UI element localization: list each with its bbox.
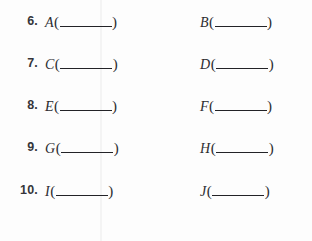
question-number: 8. <box>0 98 38 112</box>
question-row: 8. E ( ) F ( ) <box>0 98 312 126</box>
answer-item: J ( ) <box>200 183 270 200</box>
close-paren: ) <box>112 98 117 115</box>
open-paren: ( <box>56 140 61 157</box>
answer-item: A ( ) <box>45 14 117 31</box>
answer-blank-field[interactable] <box>216 152 268 153</box>
close-paren: ) <box>112 14 117 31</box>
open-paren: ( <box>50 183 55 200</box>
item-letter: C <box>45 57 55 73</box>
open-paren: ( <box>211 140 216 157</box>
answer-item: F ( ) <box>200 98 272 115</box>
close-paren: ) <box>108 183 113 200</box>
close-paren: ) <box>265 183 270 200</box>
open-paren: ( <box>211 56 216 73</box>
close-paren: ) <box>269 56 274 73</box>
answer-blank-field[interactable] <box>212 195 264 196</box>
item-letter: A <box>45 15 54 31</box>
answer-blank-field[interactable] <box>60 68 112 69</box>
answer-blank-field[interactable] <box>60 26 112 27</box>
close-paren: ) <box>267 98 272 115</box>
open-paren: ( <box>209 14 214 31</box>
close-paren: ) <box>269 140 274 157</box>
answer-blank-field[interactable] <box>215 110 267 111</box>
answer-item: G ( ) <box>45 140 119 157</box>
question-row: 9. G ( ) H ( ) <box>0 140 312 168</box>
answer-item: H ( ) <box>200 140 274 157</box>
worksheet-question-list: 6. A ( ) B ( ) 7. C ( ) D ( ) 8. <box>0 0 312 241</box>
answer-item: D ( ) <box>200 56 274 73</box>
answer-blank-field[interactable] <box>216 68 268 69</box>
question-number: 6. <box>0 14 38 28</box>
question-row: 7. C ( ) D ( ) <box>0 56 312 84</box>
question-row: 10. I ( ) J ( ) <box>0 183 312 211</box>
question-row: 6. A ( ) B ( ) <box>0 14 312 42</box>
question-number: 10. <box>0 183 38 197</box>
item-letter: F <box>200 99 209 115</box>
item-letter: D <box>200 57 211 73</box>
item-letter: E <box>45 99 54 115</box>
answer-item: E ( ) <box>45 98 117 115</box>
answer-blank-field[interactable] <box>61 152 113 153</box>
open-paren: ( <box>54 14 59 31</box>
answer-item: C ( ) <box>45 56 118 73</box>
answer-blank-field[interactable] <box>56 195 108 196</box>
question-number: 7. <box>0 56 38 70</box>
item-letter: H <box>200 141 211 157</box>
question-number: 9. <box>0 140 38 154</box>
open-paren: ( <box>55 56 60 73</box>
open-paren: ( <box>207 183 212 200</box>
answer-item: B ( ) <box>200 14 272 31</box>
answer-item: I ( ) <box>45 183 113 200</box>
answer-blank-field[interactable] <box>215 26 267 27</box>
open-paren: ( <box>209 98 214 115</box>
close-paren: ) <box>113 56 118 73</box>
open-paren: ( <box>54 98 59 115</box>
item-letter: B <box>200 15 209 31</box>
item-letter: G <box>45 141 56 157</box>
close-paren: ) <box>114 140 119 157</box>
answer-blank-field[interactable] <box>60 110 112 111</box>
item-letter: J <box>200 184 207 200</box>
close-paren: ) <box>267 14 272 31</box>
